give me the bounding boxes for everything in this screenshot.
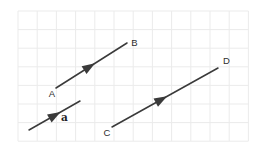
label-A: A	[49, 88, 56, 99]
vector-diagram: ABCDa	[0, 0, 267, 154]
label-a: a	[61, 111, 68, 123]
arrowhead-CD	[154, 96, 168, 106]
label-D: D	[223, 55, 230, 66]
label-C: C	[104, 127, 111, 138]
arrowhead-a	[47, 112, 61, 122]
label-B: B	[131, 37, 137, 48]
arrowhead-AB	[82, 63, 95, 74]
figure-canvas: ABCDa	[0, 0, 267, 154]
